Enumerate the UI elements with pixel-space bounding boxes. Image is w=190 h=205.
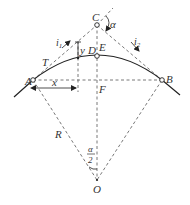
point-c (95, 23, 100, 28)
label-r: R (54, 128, 62, 140)
label-half-alpha-num: α (88, 144, 93, 154)
label-a: A (24, 75, 32, 87)
tangent-line-cb (97, 25, 162, 80)
label-half-alpha-den: 2 (88, 155, 93, 165)
radius-ao (33, 80, 97, 180)
radius-bo (97, 80, 162, 180)
y-point-marker (77, 57, 79, 59)
label-alpha: α (110, 18, 116, 30)
label-i1: i1 (56, 37, 62, 50)
alpha-angle-arc (106, 16, 109, 31)
point-o (96, 179, 98, 181)
point-b (160, 78, 165, 83)
label-x: x (51, 76, 57, 88)
label-e: E (98, 41, 106, 53)
label-y: y (79, 44, 85, 56)
label-b: B (166, 73, 173, 85)
label-o: O (93, 183, 101, 195)
label-c: C (92, 11, 100, 23)
i1-arrow-icon (62, 41, 70, 48)
label-f: F (98, 83, 106, 95)
label-t: T (42, 56, 49, 68)
vertical-curve-diagram: A B C D E F O T α α 2 i1 i2 x y R (0, 0, 190, 205)
label-d: D (87, 44, 96, 56)
